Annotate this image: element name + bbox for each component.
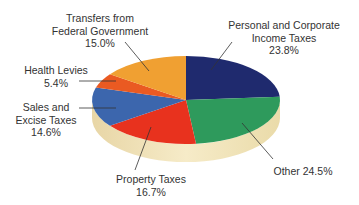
- label-line: Property Taxes: [108, 173, 194, 186]
- label-line: Sales and: [10, 101, 82, 114]
- pie-slice-personal-and-corporate-income-taxes: [186, 56, 280, 100]
- label-health-levies: Health Levies 5.4%: [20, 64, 92, 89]
- label-value: 16.7%: [108, 186, 194, 199]
- label-value: 5.4%: [20, 77, 92, 90]
- label-value: 14.6%: [10, 126, 82, 139]
- label-value: 15.0%: [50, 37, 150, 50]
- label-line: Other 24.5%: [268, 165, 338, 178]
- label-personal-income-taxes: Personal and Corporate Income Taxes 23.8…: [224, 19, 344, 57]
- label-value: 23.8%: [224, 44, 344, 57]
- pie-slices: [92, 56, 280, 144]
- label-property-taxes: Property Taxes 16.7%: [108, 173, 194, 198]
- label-line: Income Taxes: [224, 32, 344, 45]
- label-transfers-federal: Transfers from Federal Government 15.0%: [50, 12, 150, 50]
- label-other: Other 24.5%: [268, 165, 338, 178]
- label-line: Personal and Corporate: [224, 19, 344, 32]
- label-line: Health Levies: [20, 64, 92, 77]
- label-line: Excise Taxes: [10, 114, 82, 127]
- label-line: Transfers from: [50, 12, 150, 25]
- label-line: Federal Government: [50, 25, 150, 38]
- label-sales-excise-taxes: Sales and Excise Taxes 14.6%: [10, 101, 82, 139]
